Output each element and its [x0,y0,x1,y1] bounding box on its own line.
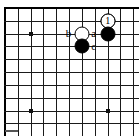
grid-line-horizontal [4,21,139,22]
label-b: b [66,28,72,39]
grid-line-horizontal [4,7,139,9]
label-c: c [91,41,96,52]
label-a: a [91,28,96,39]
stone-black[interactable] [100,26,115,41]
star-point [106,109,110,113]
grid-line-horizontal [4,59,139,60]
grid-line-horizontal [4,123,139,124]
star-point [29,32,33,36]
grid-line-horizontal [4,85,139,86]
star-point [29,109,33,113]
stone-black[interactable] [74,39,89,54]
go-board-figure: 1abc [0,0,140,137]
grid-line-horizontal [4,111,139,112]
grid-line-horizontal [4,72,139,73]
grid-line-horizontal [4,46,139,47]
grid-line-horizontal [4,34,139,35]
go-board-grid [0,0,140,137]
grid-line-horizontal [4,98,139,99]
caption-rule [5,130,18,132]
